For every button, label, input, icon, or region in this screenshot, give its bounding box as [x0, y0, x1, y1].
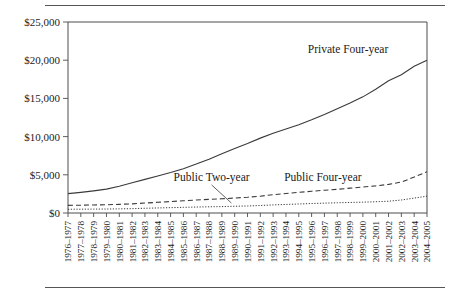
x-tick-label: 1989–1990 [230, 221, 240, 263]
y-tick-label: $10,000 [24, 131, 60, 143]
y-tick-label: $5,000 [30, 169, 61, 181]
bottom-horizontal-rule [45, 287, 445, 288]
series-label-public-two-year: Public Two-year [174, 171, 250, 184]
x-tick-label: 2002–2003 [397, 221, 407, 263]
y-tick-label: $20,000 [24, 54, 60, 66]
x-tick-label: 1992–1993 [269, 221, 279, 263]
x-tick-label: 1988–1989 [217, 221, 227, 263]
x-tick-label: 1996–1997 [320, 221, 330, 263]
y-tick-label: $15,000 [24, 92, 60, 104]
series-label-public-four-year: Public Four-year [284, 171, 362, 184]
y-axis-tick-marks [63, 22, 68, 213]
x-tick-label: 1998–1999 [345, 221, 355, 263]
x-tick-label: 1991–1992 [256, 221, 266, 263]
x-tick-label: 1994–1995 [294, 221, 304, 263]
x-tick-label: 2004–2005 [422, 221, 432, 263]
x-tick-label: 1978–1979 [89, 221, 99, 263]
x-tick-label: 1993–1994 [281, 221, 291, 263]
figure-container: $0$5,000$10,000$15,000$20,000$25,000 197… [0, 0, 450, 297]
x-tick-label: 1980–1981 [115, 221, 125, 263]
series-annotations: Private Four-yearPublic Two-yearPublic F… [174, 43, 389, 203]
x-tick-label: 1999–2000 [358, 221, 368, 263]
x-tick-label: 1981–1982 [128, 221, 138, 263]
x-tick-label: 1984–1985 [166, 221, 176, 263]
x-tick-label: 1983–1984 [153, 221, 163, 263]
x-axis-tick-labels: 1976–19771977–19781978–19791979–19801980… [63, 221, 432, 263]
line-chart: $0$5,000$10,000$15,000$20,000$25,000 197… [0, 0, 450, 297]
y-axis-tick-labels: $0$5,000$10,000$15,000$20,000$25,000 [24, 16, 60, 219]
x-tick-label: 1977–1978 [76, 221, 86, 263]
x-tick-label: 1982–1983 [140, 221, 150, 263]
series-label-private-four-year: Private Four-year [308, 43, 389, 56]
x-tick-label: 1990–1991 [243, 221, 253, 263]
x-tick-label: 1985–1986 [179, 221, 189, 263]
x-tick-label: 1995–1996 [307, 221, 317, 263]
top-horizontal-rule [45, 5, 445, 6]
series-line-public-two-year [68, 196, 427, 209]
data-series-lines [68, 60, 427, 209]
x-tick-label: 2003–2004 [410, 221, 420, 263]
x-tick-label: 1976–1977 [63, 221, 73, 263]
y-tick-label: $0 [49, 207, 61, 219]
public-two-year-leader-line [212, 185, 232, 203]
x-tick-label: 1997–1998 [333, 221, 343, 263]
x-axis-tick-marks [68, 213, 427, 217]
x-tick-label: 2000–2001 [371, 221, 381, 263]
y-tick-label: $25,000 [24, 16, 60, 28]
x-tick-label: 2001–2002 [384, 221, 394, 263]
x-tick-label: 1979–1980 [102, 221, 112, 263]
x-tick-label: 1987–1988 [204, 221, 214, 263]
x-tick-label: 1986–1987 [192, 221, 202, 263]
